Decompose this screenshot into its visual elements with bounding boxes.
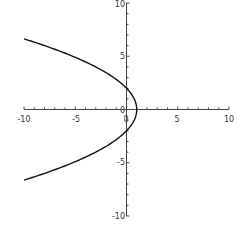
- x-tick-label: -5: [72, 115, 80, 124]
- x-tick-labels: -10 -5 0 5 10: [17, 115, 234, 124]
- x-tick-label: 10: [224, 115, 234, 124]
- y-tick-labels: 10 5 0 -5 -10: [112, 0, 125, 221]
- y-tick-label: -5: [117, 158, 125, 167]
- y-tick-label: 5: [120, 52, 125, 61]
- y-tick-label: -10: [112, 212, 125, 221]
- y-axis: [127, 3, 130, 216]
- y-tick-label: 0: [120, 106, 125, 115]
- y-tick-label: 10: [115, 0, 125, 9]
- x-tick-label: 5: [174, 115, 179, 124]
- x-tick-label: 0: [123, 115, 128, 124]
- chart: -10 -5 0 5 10 10 5 0 -5 -10: [0, 0, 246, 248]
- x-tick-label: -10: [17, 115, 30, 124]
